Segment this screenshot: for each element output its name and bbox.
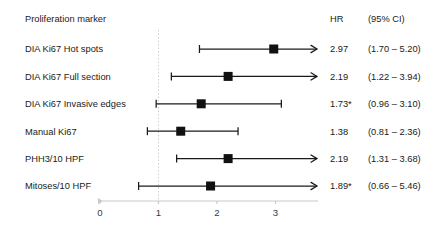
x-axis-tick-label: 3 — [273, 207, 278, 218]
hr-value: 1.38 — [330, 127, 348, 137]
row-label: Manual Ki67 — [25, 127, 77, 137]
row-label: DIA Ki67 Invasive edges — [25, 99, 126, 109]
hr-value: 2.19 — [330, 154, 348, 164]
x-axis-group: 0123 — [97, 198, 318, 218]
row-label: DIA Ki67 Full section — [25, 72, 111, 82]
forest-row: Manual Ki671.38(0.81 – 2.36) — [25, 127, 421, 137]
forest-rows-group: DIA Ki67 Hot spots2.97(1.70 – 5.20)DIA K… — [25, 44, 421, 191]
point-estimate-marker — [206, 182, 215, 191]
x-axis-tick-label: 2 — [214, 207, 219, 218]
hr-value: 1.89* — [330, 181, 352, 191]
forest-row: DIA Ki67 Invasive edges1.73*(0.96 – 3.10… — [25, 99, 421, 109]
ci-value: (0.96 – 3.10) — [368, 99, 421, 109]
column-header-ci: (95% CI) — [368, 14, 405, 24]
row-label: DIA Ki67 Hot spots — [25, 44, 103, 54]
column-headers-group: Proliferation markerHR(95% CI) — [25, 14, 405, 24]
hr-value: 2.19 — [330, 72, 348, 82]
row-label: Mitoses/10 HPF — [25, 181, 91, 191]
forest-row: DIA Ki67 Full section2.19(1.22 – 3.94) — [25, 72, 421, 82]
x-axis-tick-label: 1 — [156, 207, 161, 218]
forest-row: DIA Ki67 Hot spots2.97(1.70 – 5.20) — [25, 44, 421, 54]
point-estimate-marker — [197, 99, 206, 108]
row-label: PHH3/10 HPF — [25, 154, 84, 164]
ci-value: (1.70 – 5.20) — [368, 44, 421, 54]
ci-value: (1.22 – 3.94) — [368, 72, 421, 82]
point-estimate-marker — [269, 45, 278, 54]
point-estimate-marker — [176, 127, 185, 136]
point-estimate-marker — [224, 72, 233, 81]
column-header-hr: HR — [330, 14, 344, 24]
x-axis-tick-label: 0 — [97, 207, 102, 218]
hr-value: 1.73* — [330, 99, 352, 109]
ci-value: (1.31 – 3.68) — [368, 154, 421, 164]
ci-value: (0.66 – 5.46) — [368, 181, 421, 191]
column-header-marker: Proliferation marker — [25, 14, 106, 24]
hr-value: 2.97 — [330, 44, 348, 54]
forest-row: PHH3/10 HPF2.19(1.31 – 3.68) — [25, 154, 421, 164]
ci-value: (0.81 – 2.36) — [368, 127, 421, 137]
forest-row: Mitoses/10 HPF1.89*(0.66 – 5.46) — [25, 181, 421, 191]
forest-plot: DIA Ki67 Hot spots2.97(1.70 – 5.20)DIA K… — [0, 0, 430, 233]
point-estimate-marker — [224, 154, 233, 163]
